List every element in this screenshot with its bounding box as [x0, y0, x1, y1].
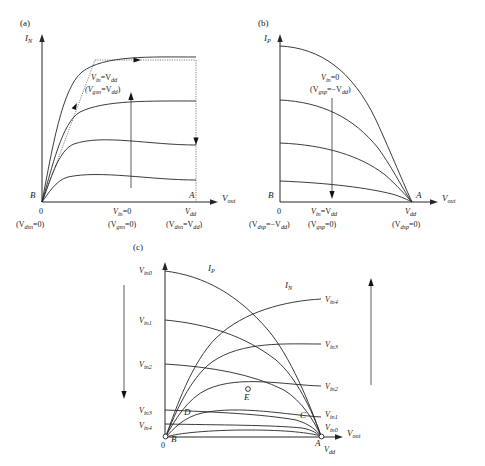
panel-a-vin-sweep-arrow: [128, 92, 133, 100]
panel-b-x-axis-label: Vout: [442, 193, 456, 204]
panel-a-annotation-line1: Vin=Vdd: [91, 73, 118, 83]
panel-b-annotation-line1: Vin=0: [321, 73, 339, 83]
panel-a-tick-right-line1: Vdd: [185, 207, 197, 217]
figure-cmos-inverter-load-lines: (a) IN Vout Vin=Vdd (Vgsn=Vdd) B: [0, 0, 485, 466]
panel-b-tick-right-line2: (Vdsp=0): [392, 220, 421, 230]
panel-b-tick-mid-line1: Vin=Vdd: [311, 207, 338, 217]
panel-a-curve-vin-vdd: [42, 57, 196, 202]
panel-a-curve-vin1: [42, 175, 196, 202]
panel-c-right-label-0: Vin4: [325, 295, 338, 305]
panel-a-point-A: A: [188, 190, 195, 200]
panel-c-left-label-1: Vin1: [139, 316, 152, 326]
panel-c-right-label-1: Vin3: [325, 340, 338, 350]
panel-a: (a) IN Vout Vin=Vdd (Vgsn=Vdd) B: [16, 18, 236, 230]
panel-a-x-axis-arrowhead: [210, 199, 218, 204]
panel-c-left-label-4: Vin4: [139, 421, 152, 431]
panel-c-left-label-3: Vin3: [139, 406, 152, 416]
panel-b-curve-vin3: [280, 181, 412, 202]
panel-a-tick-right-line2: (Vdsn=Vdd): [166, 220, 203, 230]
panel-c-curve-label-ip: IP: [207, 263, 215, 274]
panel-c-right-label-4: Vin0: [325, 423, 339, 433]
panel-a-annotation-line2: (Vgsn=Vdd): [85, 85, 121, 95]
panel-c-x-axis-label: Vout: [347, 428, 361, 439]
panel-c-point-C: C: [300, 410, 307, 420]
panel-c-curve-label-in: IN: [284, 280, 293, 291]
panel-b: (b) IP Vout Vin=0 (Vgsp=−Vdd) B A 0 (Vds…: [249, 18, 456, 230]
figure-svg: (a) IN Vout Vin=Vdd (Vgsn=Vdd) B: [0, 0, 485, 466]
panel-b-point-A: A: [415, 190, 422, 200]
panel-c-right-label-3: Vin1: [325, 410, 338, 420]
panel-c: (c) Vout B A E D C 0 Vdd IP IN: [121, 242, 373, 455]
panel-a-curve-vin2: [42, 140, 196, 202]
panel-b-x-axis-arrowhead: [430, 199, 438, 204]
panel-c-right-direction-arrow-up: [368, 278, 373, 286]
panel-c-curve-ip-vin4: [165, 424, 321, 437]
panel-c-point-marker-E: [246, 387, 251, 392]
panel-c-point-A: A: [314, 438, 321, 448]
panel-c-left-label-2: Vin2: [139, 360, 152, 370]
panel-c-point-B: B: [171, 434, 177, 444]
panel-c-vdd-label: Vdd: [324, 445, 336, 455]
panel-b-y-axis-label: IP: [263, 33, 271, 44]
panel-b-y-axis-arrowhead: [277, 34, 282, 42]
panel-a-right-arrow-down: [193, 138, 198, 146]
panel-a-tick-origin-line2: (Vdsn=0): [16, 220, 45, 230]
panel-b-curve-vin2: [280, 143, 412, 202]
panel-a-curve-vin3: [42, 101, 196, 202]
panel-c-x-axis-arrowhead: [335, 434, 343, 439]
panel-a-y-axis-label: IN: [24, 33, 33, 44]
panel-b-tick-mid-line2: (Vgsp=0): [308, 220, 337, 230]
panel-c-left-direction-arrow-down: [121, 391, 126, 399]
panel-c-curve-in-vin3: [166, 344, 321, 436]
panel-c-y-axis-arrowhead: [162, 262, 167, 270]
panel-a-tick-mid-line1: Vin=0: [113, 207, 131, 217]
panel-c-point-marker-B: [163, 434, 168, 439]
panel-a-x-axis-label: Vout: [222, 193, 236, 204]
panel-b-point-B: B: [268, 190, 274, 200]
panel-b-tick-right-line1: Vdd: [405, 207, 417, 217]
panel-c-right-label-2: Vin2: [325, 382, 338, 392]
panel-b-curve-vin1: [280, 100, 412, 202]
panel-a-tick-origin-line1: 0: [39, 207, 43, 216]
panel-b-vin-sweep-arrow: [329, 191, 334, 199]
panel-a-locus-arrow: [72, 103, 77, 110]
panel-c-left-label-0: Vin0: [139, 266, 153, 276]
panel-a-tag: (a): [20, 18, 30, 28]
panel-a-point-B: B: [30, 190, 36, 200]
panel-c-point-D: D: [183, 407, 191, 417]
panel-c-origin-label: 0: [161, 441, 165, 450]
panel-b-annotation-line2: (Vgsp=−Vdd): [310, 85, 351, 95]
panel-c-curve-in-vin0: [166, 430, 321, 437]
panel-c-tag: (c): [133, 242, 143, 252]
panel-b-curve-vin-0: [280, 46, 412, 202]
panel-a-y-axis-arrowhead: [39, 34, 44, 42]
panel-b-tick-origin-line2: (Vdsp=−Vdd): [249, 220, 290, 230]
panel-b-tag: (b): [258, 18, 269, 28]
panel-c-point-E: E: [243, 392, 250, 402]
panel-a-tick-mid-line2: (Vgsn=0): [108, 220, 137, 230]
panel-b-tick-origin-line1: 0: [277, 207, 281, 216]
